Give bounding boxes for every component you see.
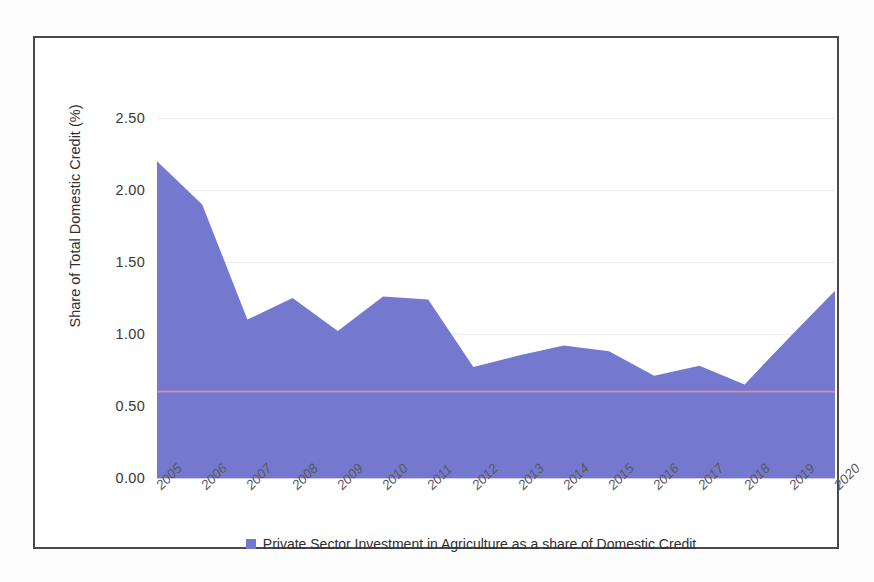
chart-figure-frame: Share of Total Domestic Credit (%) 2.50 … <box>33 36 839 549</box>
legend-swatch-icon <box>246 539 256 549</box>
y-tick-050: 0.50 <box>116 398 145 414</box>
y-tick-100: 1.00 <box>116 326 145 342</box>
x-tick-2020: 2020 <box>831 461 863 493</box>
y-axis-tick-labels: 2.50 2.00 1.50 1.00 0.50 0.00 <box>93 118 145 478</box>
y-tick-000: 0.00 <box>116 470 145 486</box>
y-tick-200: 2.00 <box>116 182 145 198</box>
plot-area <box>157 118 835 478</box>
y-axis-title: Share of Total Domestic Credit (%) <box>67 26 83 406</box>
scanned-page: Share of Total Domestic Credit (%) 2.50 … <box>0 0 874 582</box>
x-axis-tick-labels: 2005200620072008200920102011201220132014… <box>157 482 835 532</box>
legend-label: Private Sector Investment in Agriculture… <box>263 536 696 552</box>
y-tick-150: 1.50 <box>116 254 145 270</box>
y-tick-250: 2.50 <box>116 110 145 126</box>
area-series-private-sector-investment <box>157 161 835 478</box>
area-series-chart <box>157 118 835 478</box>
chart-legend: Private Sector Investment in Agriculture… <box>68 536 874 552</box>
